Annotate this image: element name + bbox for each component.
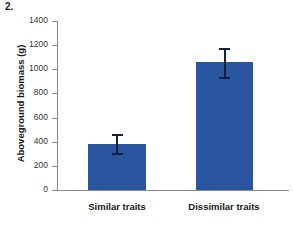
chart-screenshot: 2. Aboveground biomass (g) 0200400600800…	[0, 0, 293, 226]
error-bar-line	[224, 48, 226, 77]
y-tick-label-wrap: 1400	[14, 16, 48, 26]
y-tick-label-wrap: 1000	[14, 64, 48, 74]
error-bar-cap-lower	[112, 153, 123, 155]
bar-dissimilar-traits	[196, 62, 253, 190]
error-bar-cap-upper	[112, 134, 123, 136]
y-tick-label: 1200	[18, 40, 48, 49]
y-tick-label-wrap: 200	[14, 161, 48, 171]
y-axis-line	[57, 21, 58, 191]
x-axis-category-label: Similar traits	[62, 201, 172, 212]
y-tick-mark	[52, 69, 57, 70]
y-tick-mark	[52, 190, 57, 191]
y-tick-label-wrap: 400	[14, 137, 48, 147]
y-tick-label-wrap: 0	[14, 185, 48, 195]
y-tick-mark	[52, 166, 57, 167]
y-tick-mark	[52, 21, 57, 22]
y-tick-mark	[52, 118, 57, 119]
y-tick-label: 600	[18, 113, 48, 122]
y-tick-label: 400	[18, 137, 48, 146]
y-tick-label-wrap: 600	[14, 113, 48, 123]
y-tick-mark	[52, 93, 57, 94]
y-tick-label-wrap: 1200	[14, 40, 48, 50]
x-axis-category-label: Dissimilar traits	[164, 201, 284, 212]
y-tick-label: 1400	[18, 16, 48, 25]
y-tick-label-wrap: 800	[14, 88, 48, 98]
error-bar-line	[116, 134, 118, 153]
error-bar-cap-upper	[219, 48, 230, 50]
plot-area: 0200400600800100012001400 Similar traits…	[0, 0, 293, 226]
y-tick-mark	[52, 45, 57, 46]
y-tick-label: 200	[18, 161, 48, 170]
y-tick-label: 0	[18, 185, 48, 194]
error-bar-cap-lower	[219, 77, 230, 79]
y-tick-mark	[52, 142, 57, 143]
x-axis-line	[57, 190, 289, 191]
y-tick-label: 1000	[18, 64, 48, 73]
y-tick-label: 800	[18, 88, 48, 97]
